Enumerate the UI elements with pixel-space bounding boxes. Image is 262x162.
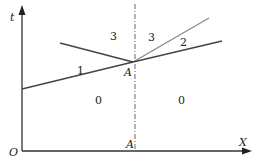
region-0-left-label: 0 <box>95 94 102 107</box>
t-axis-label: t <box>10 11 15 24</box>
line-upper-left <box>60 43 133 62</box>
wave-diagram: t X O A A 1 3 3 2 0 0 <box>0 0 262 162</box>
origin-label: O <box>9 146 18 159</box>
point-a-label: A <box>123 66 132 79</box>
line-upper-right <box>133 18 209 62</box>
region-1-label: 1 <box>77 64 84 77</box>
region-3-left-label: 3 <box>110 30 117 43</box>
point-a-axis-label: A <box>125 138 134 151</box>
wave-lines <box>22 18 222 89</box>
region-3-right-label: 3 <box>148 31 155 44</box>
x-axis-label: X <box>238 136 248 149</box>
line-lower-right <box>133 41 222 62</box>
t-axis-arrow-icon <box>19 5 26 15</box>
region-2-label: 2 <box>180 36 187 49</box>
region-0-right-label: 0 <box>178 94 185 107</box>
